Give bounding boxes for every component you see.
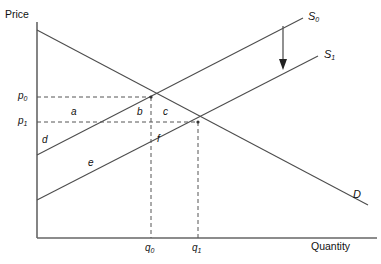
guide-lines-group [37, 97, 198, 238]
demand-curve [37, 30, 368, 205]
equilibrium-point-e0 [149, 95, 152, 98]
region-label-f: f [157, 134, 160, 144]
supply-curve-s0-label: S0 [308, 11, 319, 22]
region-label-b: b [137, 107, 143, 117]
demand-curve-label: D [353, 189, 361, 200]
price-p1-base: p [18, 115, 24, 126]
equilibrium-points [149, 95, 199, 123]
y-axis-label: Price [5, 9, 29, 20]
price-p1-subscript: 1 [24, 120, 28, 127]
supply-demand-figure: Price Quantity S0 S1 D p0 p1 q0 q1 a b c… [0, 0, 381, 264]
supply-curve-s1 [37, 56, 318, 200]
supply-curve-s0 [37, 18, 303, 155]
x-axis-label: Quantity [311, 241, 350, 252]
supply-curve-s1-label: S1 [324, 49, 335, 60]
price-tick-p1: p1 [18, 116, 27, 126]
region-label-d: d [42, 135, 48, 145]
price-p0-base: p [18, 90, 24, 101]
supply-shift-arrow [279, 26, 287, 70]
price-tick-p0: p0 [18, 91, 27, 101]
quantity-q1-subscript: 1 [198, 247, 202, 254]
region-label-c: c [163, 107, 168, 117]
price-p0-subscript: 0 [24, 95, 28, 102]
quantity-tick-q1: q1 [192, 243, 201, 253]
region-label-e: e [88, 158, 94, 168]
supply-s1-subscript: 1 [331, 54, 335, 61]
quantity-tick-q0: q0 [145, 243, 154, 253]
equilibrium-point-e1 [196, 120, 199, 123]
region-label-a: a [71, 107, 77, 117]
diagram-canvas [0, 0, 381, 264]
quantity-q0-base: q [145, 242, 151, 253]
quantity-q0-subscript: 0 [151, 247, 155, 254]
supply-s0-subscript: 0 [315, 16, 319, 23]
quantity-q1-base: q [192, 242, 198, 253]
